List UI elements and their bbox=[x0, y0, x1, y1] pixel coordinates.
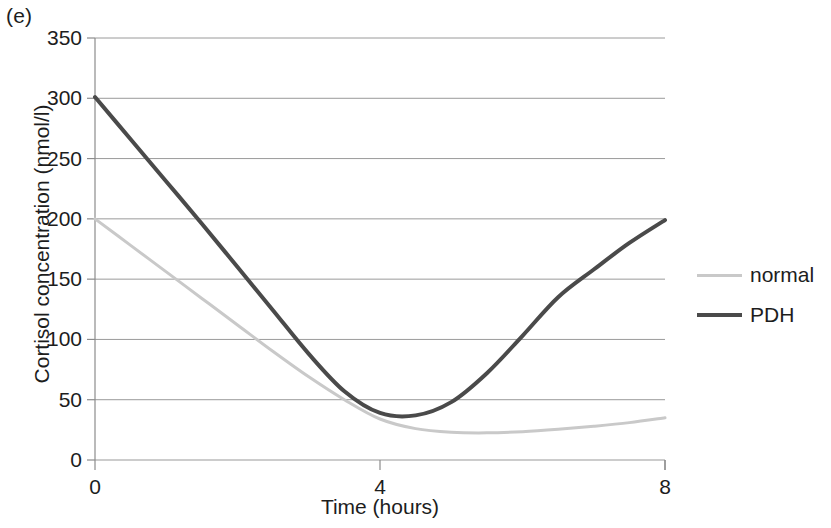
series-line-pdh bbox=[95, 97, 665, 416]
legend-item-pdh: PDH bbox=[697, 295, 831, 335]
series-line-normal bbox=[95, 219, 665, 433]
y-tick-label: 50 bbox=[8, 389, 82, 410]
x-tick-label: 8 bbox=[645, 476, 685, 497]
chart-legend: normal PDH bbox=[697, 255, 831, 335]
y-tick-label: 250 bbox=[8, 148, 82, 169]
y-tick-label: 350 bbox=[8, 27, 82, 48]
x-axis-title: Time (hours) bbox=[95, 495, 665, 519]
chart-figure: (e) Cortisol concentration (nmol/l) Time… bbox=[0, 0, 831, 528]
axis-lines bbox=[95, 38, 665, 470]
legend-swatch-normal-icon bbox=[697, 274, 742, 277]
y-tick-label: 300 bbox=[8, 87, 82, 108]
legend-label-normal: normal bbox=[750, 263, 814, 287]
axis-ticks bbox=[87, 38, 665, 470]
y-tick-label: 200 bbox=[8, 208, 82, 229]
y-tick-label: 100 bbox=[8, 328, 82, 349]
legend-swatch-pdh-icon bbox=[697, 313, 742, 317]
x-tick-label: 4 bbox=[360, 476, 400, 497]
panel-label: (e) bbox=[6, 4, 32, 28]
y-tick-label: 150 bbox=[8, 268, 82, 289]
legend-item-normal: normal bbox=[697, 255, 831, 295]
y-tick-label: 0 bbox=[8, 449, 82, 470]
data-series bbox=[95, 97, 665, 433]
x-tick-label: 0 bbox=[75, 476, 115, 497]
gridlines bbox=[95, 38, 665, 460]
legend-label-pdh: PDH bbox=[750, 303, 794, 327]
